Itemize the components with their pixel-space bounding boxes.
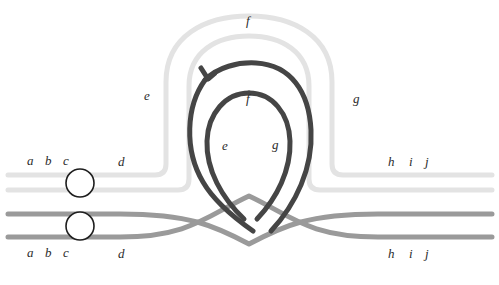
label-upper-left-d: d xyxy=(118,155,125,168)
strand-inner-dark-loop xyxy=(190,63,311,231)
label-lower-right-h: h xyxy=(388,247,395,260)
label-lower-left-d: d xyxy=(118,247,125,260)
label-upper-left-b: b xyxy=(45,154,52,167)
circle-lower[interactable] xyxy=(66,212,94,240)
label-upper-right-h: h xyxy=(388,155,395,168)
label-inner-right-g: g xyxy=(272,138,279,151)
label-lower-left-b: b xyxy=(45,246,52,259)
label-outer-left-e: e xyxy=(144,89,150,102)
label-top-arch-f: f xyxy=(246,14,250,27)
label-upper-right-i: i xyxy=(409,155,413,168)
label-inner-left-e: e xyxy=(222,139,228,152)
label-outer-right-g: g xyxy=(353,92,360,105)
label-upper-right-j: j xyxy=(425,155,429,168)
label-lower-left-a: a xyxy=(27,246,34,259)
diagram-canvas: f e g f e g a b c d h i j a b c d h i j xyxy=(0,0,499,285)
label-upper-left-a: a xyxy=(27,154,34,167)
dark-loop-notch-icon xyxy=(201,68,215,79)
circle-upper[interactable] xyxy=(66,169,94,197)
label-lower-right-j: j xyxy=(425,247,429,260)
knot-diagram-svg xyxy=(0,0,499,285)
label-lower-right-i: i xyxy=(409,247,413,260)
label-inner-top-f: f xyxy=(246,92,250,105)
node-circles xyxy=(66,169,94,240)
label-upper-left-c: c xyxy=(63,154,69,167)
label-lower-left-c: c xyxy=(63,246,69,259)
strand-upper-light-pair xyxy=(8,16,492,190)
light-strand-inner xyxy=(8,36,492,190)
